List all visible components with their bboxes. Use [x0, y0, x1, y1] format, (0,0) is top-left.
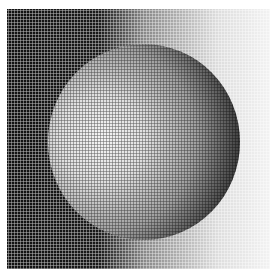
sphere-halftone-pattern — [48, 44, 240, 240]
halftone-background — [7, 9, 270, 269]
shaded-sphere — [48, 44, 240, 240]
